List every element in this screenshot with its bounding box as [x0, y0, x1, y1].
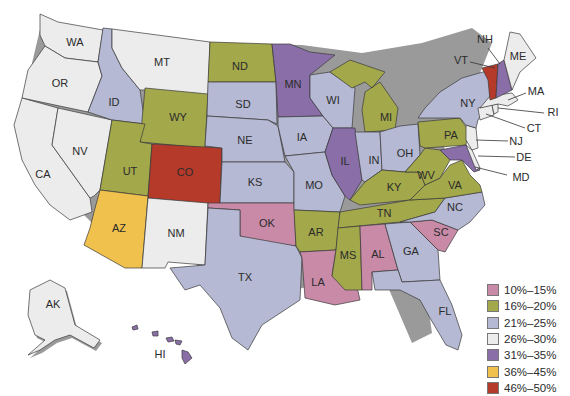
legend-swatch [487, 317, 499, 329]
svg-text:TX: TX [238, 271, 253, 283]
svg-text:ND: ND [232, 60, 248, 72]
legend-item: 46%–50% [487, 380, 556, 396]
svg-text:TN: TN [377, 207, 392, 219]
svg-text:MD: MD [512, 171, 529, 183]
svg-text:SC: SC [433, 226, 448, 238]
legend-label: 26%–30% [504, 333, 556, 345]
legend-swatch [487, 333, 499, 345]
svg-text:DE: DE [516, 151, 531, 163]
legend-swatch [487, 284, 499, 296]
svg-text:AK: AK [46, 298, 61, 310]
legend-item: 36%–45% [487, 363, 556, 379]
svg-text:NM: NM [167, 227, 184, 239]
legend-item: 21%–25% [487, 315, 556, 331]
svg-text:OH: OH [397, 147, 414, 159]
svg-text:WY: WY [169, 111, 187, 123]
svg-text:NC: NC [447, 201, 463, 213]
svg-text:WA: WA [66, 36, 84, 48]
svg-text:AL: AL [371, 248, 384, 260]
legend-label: 16%–20% [504, 300, 556, 312]
svg-text:CA: CA [35, 168, 51, 180]
svg-text:MA: MA [528, 85, 545, 97]
svg-text:FL: FL [439, 305, 452, 317]
svg-text:IA: IA [297, 131, 308, 143]
svg-text:SD: SD [235, 98, 250, 110]
svg-text:KS: KS [248, 176, 263, 188]
legend-swatch [487, 300, 499, 312]
legend-item: 10%–15% [487, 282, 556, 298]
svg-text:ID: ID [109, 96, 120, 108]
svg-text:NV: NV [72, 145, 88, 157]
svg-text:IL: IL [340, 155, 349, 167]
legend-label: 10%–15% [504, 284, 556, 296]
svg-text:HI: HI [155, 348, 166, 360]
legend-swatch [487, 366, 499, 378]
svg-text:WV: WV [417, 169, 435, 181]
legend: 10%–15% 16%–20% 21%–25% 26%–30% 31%–35% … [487, 282, 556, 396]
legend-swatch [487, 382, 499, 394]
svg-text:VT: VT [454, 54, 468, 66]
svg-text:NE: NE [237, 134, 252, 146]
svg-text:GA: GA [403, 245, 420, 257]
svg-text:PA: PA [444, 129, 459, 141]
svg-text:MI: MI [380, 111, 392, 123]
svg-text:KY: KY [387, 181, 402, 193]
svg-text:CO: CO [177, 166, 194, 178]
svg-text:OR: OR [52, 77, 69, 89]
svg-text:MO: MO [305, 179, 323, 191]
svg-text:WI: WI [326, 94, 339, 106]
svg-text:MN: MN [284, 78, 301, 90]
svg-text:LA: LA [311, 276, 325, 288]
svg-text:UT: UT [123, 165, 138, 177]
svg-text:ME: ME [510, 50, 527, 62]
legend-label: 46%–50% [504, 382, 556, 394]
legend-label: 21%–25% [504, 317, 556, 329]
state-ak[interactable] [28, 280, 100, 355]
svg-text:NJ: NJ [509, 135, 522, 147]
svg-text:RI: RI [548, 106, 559, 118]
legend-label: 36%–45% [504, 366, 556, 378]
svg-text:MT: MT [154, 56, 170, 68]
svg-text:NY: NY [460, 97, 476, 109]
legend-item: 26%–30% [487, 331, 556, 347]
svg-text:IN: IN [369, 154, 380, 166]
state-pa[interactable] [418, 118, 468, 148]
svg-text:AZ: AZ [112, 222, 126, 234]
svg-text:MS: MS [340, 249, 357, 261]
svg-text:AR: AR [308, 226, 323, 238]
legend-item: 31%–35% [487, 347, 556, 363]
legend-label: 31%–35% [504, 349, 556, 361]
svg-text:VA: VA [448, 179, 463, 191]
svg-text:OK: OK [259, 217, 276, 229]
svg-text:NH: NH [477, 33, 493, 45]
svg-text:CT: CT [527, 122, 542, 134]
legend-swatch [487, 349, 499, 361]
legend-item: 16%–20% [487, 298, 556, 314]
